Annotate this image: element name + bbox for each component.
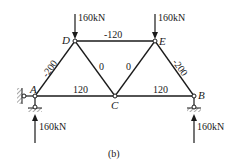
wall-hatch-icon xyxy=(17,88,22,104)
node-label-E: E xyxy=(158,35,166,47)
member-EC xyxy=(115,41,155,96)
arrow-down-icon xyxy=(72,32,78,39)
node-D xyxy=(73,39,77,43)
arrow-down-icon xyxy=(152,32,158,39)
reaction-label-B: 160kN xyxy=(197,121,224,132)
load-label-E: 160kN xyxy=(158,12,185,23)
force-label-DC: 0 xyxy=(99,61,104,72)
node-label-A: A xyxy=(29,83,37,95)
force-label-DE: -120 xyxy=(104,29,122,40)
arrow-up-icon xyxy=(32,114,38,121)
node-E xyxy=(153,39,157,43)
force-label-CB: 120 xyxy=(153,84,168,95)
node-B xyxy=(192,94,196,98)
force-label-AC: 120 xyxy=(73,84,88,95)
truss-diagram: D E A C B 160kN 160kN 160kN 160kN -200 -… xyxy=(0,0,238,167)
members xyxy=(35,41,194,96)
figure-caption: (b) xyxy=(108,148,120,160)
force-label-EC: 0 xyxy=(126,61,131,72)
reaction-A xyxy=(32,114,38,143)
node-label-D: D xyxy=(61,34,70,46)
load-label-D: 160kN xyxy=(78,12,105,23)
node-label-C: C xyxy=(111,99,119,111)
reaction-label-A: 160kN xyxy=(39,121,66,132)
nodes xyxy=(33,39,196,98)
node-C xyxy=(113,94,117,98)
node-label-B: B xyxy=(198,89,205,101)
force-label-AD: -200 xyxy=(40,58,60,79)
arrow-up-icon xyxy=(191,114,197,121)
